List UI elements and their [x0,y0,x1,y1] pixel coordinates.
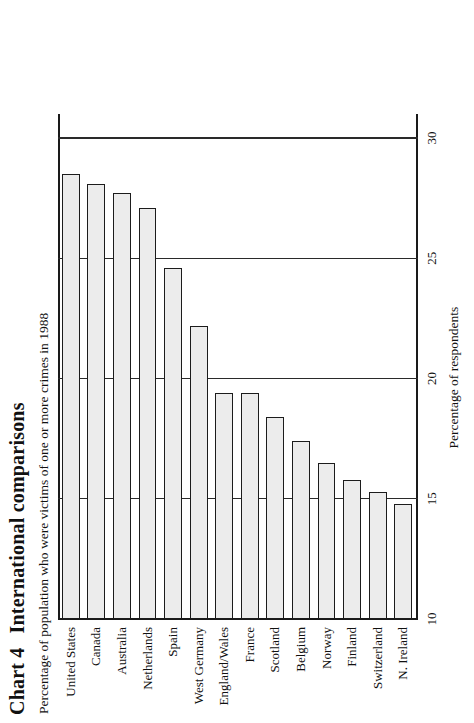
bar [241,393,259,619]
bar [190,326,208,619]
tick-label-20: 20 [424,365,440,393]
bar [318,463,336,619]
bar [113,193,131,619]
page-title: Chart 4International comparisons [6,402,29,715]
category-label: Switzerland [370,627,386,723]
bar [266,417,284,619]
category-label: Scotland [267,627,283,723]
tick-label-10: 10 [424,605,440,633]
category-label: France [242,627,258,723]
category-label: United States [63,627,79,723]
bar [164,268,182,619]
category-label: Belgium [293,627,309,723]
bar [62,174,80,619]
plot-frame-bottom [416,114,418,619]
tick-label-15: 15 [424,485,440,513]
tick-label-30: 30 [424,124,440,152]
bar [87,184,105,619]
plot-frame-top [58,114,60,619]
bar [343,480,361,619]
bar [139,208,157,619]
category-label: Finland [344,627,360,723]
chart-title-text: International comparisons [6,402,28,633]
category-label: West Germany [191,627,207,723]
category-label: England/Wales [216,627,232,723]
category-label: Canada [88,627,104,723]
chart-figure: Chart 4International comparisons Percent… [0,0,474,723]
bar [215,393,233,619]
category-label: Spain [165,627,181,723]
bar [369,492,387,619]
category-label: Australia [114,627,130,723]
category-label: Norway [319,627,335,723]
value-axis-title: Percentage of respondents [446,307,462,449]
bar [394,504,412,619]
bar [292,441,310,619]
category-label: N. Ireland [395,627,411,723]
chart-subtitle: Percentage of population who were victim… [36,313,52,714]
category-label: Netherlands [140,627,156,723]
chart-number: Chart 4 [6,647,28,715]
tick-label-25: 25 [424,244,440,272]
gridline-30 [58,137,418,138]
